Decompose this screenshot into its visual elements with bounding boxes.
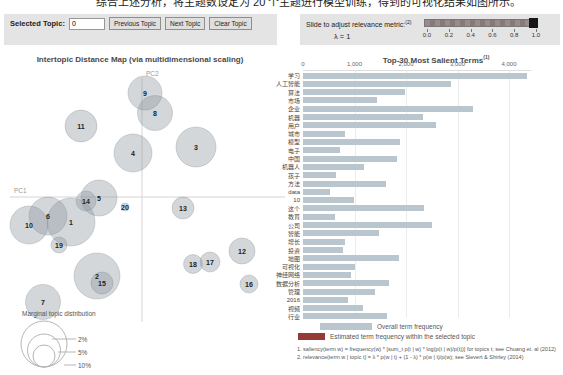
term-row[interactable]: 方法 (242, 180, 386, 187)
size-legend-2pct-label: 2% (78, 336, 88, 343)
term-row[interactable]: 行业 (242, 313, 387, 320)
topic-number-18[interactable]: 18 (189, 261, 197, 268)
term-row[interactable]: 电子 (242, 147, 340, 154)
term-bar[interactable] (303, 247, 343, 253)
term-row[interactable]: 用户 (242, 122, 436, 129)
term-row[interactable]: 视频 (242, 305, 363, 312)
term-row[interactable]: 可视化 (242, 263, 355, 270)
topic-number-19[interactable]: 19 (55, 242, 63, 249)
topic-number-8[interactable]: 8 (153, 110, 157, 117)
term-row[interactable]: 机器 (242, 114, 423, 121)
chart-axis-line (303, 70, 531, 71)
term-label[interactable]: 方法 (242, 179, 303, 188)
term-label[interactable]: 10 (242, 197, 303, 203)
topic-number-11[interactable]: 11 (77, 123, 85, 130)
pc1-axis-label: PC1 (14, 187, 27, 194)
size-legend-10pct-label: 10% (78, 362, 91, 369)
term-row[interactable]: 2016 (242, 296, 348, 303)
term-row[interactable]: 学习 (242, 72, 527, 79)
term-bar[interactable] (303, 230, 379, 236)
term-bar[interactable] (303, 73, 527, 79)
term-bar[interactable] (303, 205, 424, 211)
term-label[interactable]: 管理 (242, 287, 303, 296)
term-row[interactable]: 市场 (242, 97, 377, 104)
topic-number-6[interactable]: 6 (46, 213, 50, 220)
topic-number-9[interactable]: 9 (143, 90, 147, 97)
term-row[interactable]: 城市 (242, 130, 345, 137)
term-row[interactable]: 机器人 (242, 163, 364, 170)
term-row[interactable]: 神经网络 (242, 271, 351, 278)
term-bar[interactable] (303, 181, 386, 187)
legend-overall-frequency: Overall term frequency (320, 323, 443, 330)
term-bar[interactable] (303, 297, 348, 303)
term-bar[interactable] (303, 305, 363, 311)
term-row[interactable]: 10 (242, 197, 354, 204)
term-row[interactable]: 数据分析 (242, 280, 389, 287)
term-row[interactable]: 人工智能 (242, 80, 451, 87)
x-tick-label: 1,000 (340, 61, 370, 67)
term-bar[interactable] (303, 239, 345, 245)
topic-number-17[interactable]: 17 (206, 259, 214, 266)
term-row[interactable]: 教育 (242, 213, 335, 220)
term-bar[interactable] (303, 164, 364, 170)
term-row[interactable]: 孩子 (242, 172, 336, 179)
salient-terms-bars: 学习人工智能算法市场企业机器用户城市模型电子中国机器人孩子方法data10这个教… (242, 72, 542, 322)
term-bar[interactable] (303, 106, 473, 112)
term-bar[interactable] (303, 289, 375, 295)
topic-number-20[interactable]: 20 (121, 204, 129, 211)
size-legend-5pct-label: 5% (78, 349, 88, 356)
term-bar[interactable] (303, 189, 330, 195)
x-tick-label: 4,000 (494, 61, 524, 67)
term-row[interactable]: data (242, 188, 330, 195)
topic-number-4[interactable]: 4 (131, 150, 135, 157)
size-legend: 2% 5% 10% (21, 321, 91, 369)
term-bar[interactable] (303, 156, 397, 162)
term-bar[interactable] (303, 197, 354, 203)
term-bar[interactable] (303, 222, 432, 228)
term-row[interactable]: 这个 (242, 205, 424, 212)
footnote-ref-1: (1) (483, 54, 489, 60)
pyldavis-root: 综合上述分析，将主题数设定为 20 个主题进行模型训练，得到的可视化结果如图所示… (0, 0, 563, 375)
selected-frequency-swatch (298, 333, 325, 340)
term-bar[interactable] (303, 172, 336, 178)
term-row[interactable]: 算法 (242, 89, 405, 96)
term-row[interactable]: 公司 (242, 222, 432, 229)
term-bar[interactable] (303, 280, 389, 286)
term-bar[interactable] (303, 214, 335, 220)
topic-number-3[interactable]: 3 (194, 144, 198, 151)
term-bar[interactable] (303, 89, 405, 95)
term-bar[interactable] (303, 139, 400, 145)
term-row[interactable]: 企业 (242, 105, 473, 112)
footnote-relevance: 2. relevance(term w | topic t) = λ * p(w… (297, 354, 524, 360)
term-row[interactable]: 投资 (242, 247, 343, 254)
term-bar[interactable] (303, 255, 399, 261)
term-bar[interactable] (303, 114, 423, 120)
topic-number-2[interactable]: 2 (95, 273, 99, 280)
term-bar[interactable] (303, 122, 436, 128)
topic-number-7[interactable]: 7 (41, 299, 45, 306)
term-bar[interactable] (303, 81, 451, 87)
topic-number-13[interactable]: 13 (179, 205, 187, 212)
term-row[interactable]: 管理 (242, 288, 375, 295)
term-bar[interactable] (303, 147, 340, 153)
topic-number-5[interactable]: 5 (97, 195, 101, 202)
topic-number-1[interactable]: 1 (69, 219, 73, 226)
topic-number-10[interactable]: 10 (25, 222, 33, 229)
legend-selected-frequency: Estimated term frequency within the sele… (298, 333, 475, 340)
size-legend-circle-10pct (21, 321, 67, 367)
term-row[interactable]: 增长 (242, 238, 345, 245)
term-label[interactable]: data (242, 189, 303, 195)
term-row[interactable]: 智能 (242, 230, 379, 237)
term-bar[interactable] (303, 264, 355, 270)
term-bar[interactable] (303, 97, 377, 103)
topic-number-14[interactable]: 14 (82, 198, 90, 205)
term-row[interactable]: 中国 (242, 155, 397, 162)
topic-number-15[interactable]: 15 (98, 280, 106, 287)
term-bar[interactable] (303, 131, 345, 137)
term-label[interactable]: 2016 (242, 297, 303, 303)
term-bar[interactable] (303, 313, 387, 319)
term-label[interactable]: 行业 (242, 312, 303, 321)
term-bar[interactable] (303, 272, 351, 278)
term-row[interactable]: 地图 (242, 255, 399, 262)
term-row[interactable]: 模型 (242, 138, 400, 145)
